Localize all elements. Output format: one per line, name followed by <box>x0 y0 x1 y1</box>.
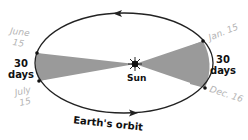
right-duration-unit: days <box>210 66 236 76</box>
right-duration-label: 30 days <box>210 55 236 76</box>
left-duration-label: 30 days <box>8 59 34 80</box>
earth-position-june-15 <box>35 51 39 55</box>
left-duration-unit: days <box>8 70 34 80</box>
earth-position-dec-16 <box>203 86 207 90</box>
earth-position-july-15 <box>37 79 41 83</box>
earth-position-jan-15 <box>201 39 205 43</box>
date-label-june-15: June 15 <box>5 26 34 49</box>
sun-label: Sun <box>127 74 146 83</box>
sun-icon <box>128 57 142 71</box>
right-duration-value: 30 <box>210 55 236 65</box>
left-duration-value: 30 <box>8 59 34 69</box>
